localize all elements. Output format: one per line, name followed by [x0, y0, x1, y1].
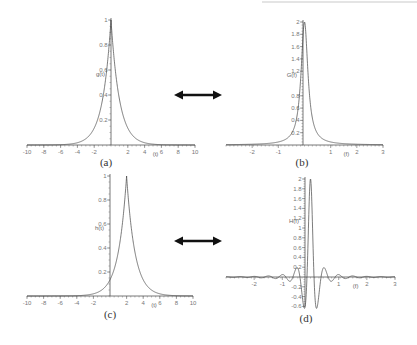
x-tick-label: -2 [249, 149, 255, 155]
x-tick-label: 4 [143, 149, 147, 155]
y-tick-label: 0.8 [293, 235, 302, 241]
x-tick-label: -1 [276, 149, 282, 155]
x-tick-label: 3 [393, 281, 397, 287]
y-tick-label: 2 [298, 176, 302, 182]
y-tick-label: 1.4 [291, 56, 300, 62]
y-tick-label: 0.6 [293, 245, 302, 251]
y-axis-label: h(t) [95, 225, 104, 231]
y-tick-label: 1 [298, 225, 302, 231]
panel-c-time-domain-h: -10-8-6-4-22468100.20.40.60.81h(t)(t)(c) [23, 173, 197, 321]
x-tick-label: -4 [75, 149, 81, 155]
x-axis-label: (t) [151, 302, 157, 308]
y-tick-label: 1.8 [291, 31, 300, 37]
x-tick-label: -4 [74, 300, 80, 306]
panel-b-frequency-domain-G: -2-11230.20.40.60.81.21.41.61.82G(f)(f)(… [226, 19, 385, 169]
x-tick-label: 2 [355, 149, 359, 155]
x-axis-label: (f) [344, 151, 350, 157]
x-tick-label: -1 [280, 281, 286, 287]
y-tick-label: -0.6 [291, 303, 302, 309]
x-tick-label: 1 [337, 281, 341, 287]
x-tick-label: -10 [23, 149, 32, 155]
y-tick-label: -0.4 [291, 294, 302, 300]
x-tick-label: 8 [175, 300, 179, 306]
x-tick-label: 3 [381, 149, 385, 155]
y-tick-label: 0.8 [99, 42, 108, 48]
panel-caption: (d) [300, 312, 313, 325]
y-tick-label: 1.6 [293, 196, 302, 202]
x-tick-label: -2 [91, 300, 97, 306]
x-axis-label: (f) [353, 283, 359, 289]
y-tick-label: 0.6 [291, 105, 300, 111]
panel-caption: (b) [296, 156, 309, 169]
y-tick-label: 1 [104, 17, 108, 23]
y-tick-label: 2 [296, 19, 300, 25]
data-curve [226, 22, 383, 145]
y-tick-label: 1.8 [293, 186, 302, 192]
fourier-pair-arrow-top [174, 91, 222, 100]
y-tick-label: 0.4 [98, 245, 107, 251]
y-tick-label: 0.2 [99, 117, 108, 123]
panel-caption: (c) [104, 308, 117, 321]
y-tick-label: 0.8 [98, 197, 107, 203]
y-tick-label: 1 [103, 173, 107, 179]
y-tick-label: 0.2 [291, 130, 300, 136]
x-tick-label: 8 [177, 149, 181, 155]
panel-caption: (a) [100, 156, 113, 169]
y-axis-label: H(f) [289, 218, 299, 224]
data-curve [226, 179, 395, 308]
x-tick-label: 6 [158, 300, 162, 306]
x-tick-label: 2 [126, 149, 130, 155]
x-tick-label: -8 [41, 300, 47, 306]
y-tick-label: 0.8 [291, 93, 300, 99]
x-tick-label: -6 [58, 300, 64, 306]
figure-canvas: -10-8-6-4-22468100.20.40.60.81g(t)(t)(a)… [0, 0, 417, 345]
y-tick-label: 0.4 [293, 254, 302, 260]
y-tick-label: 0.2 [98, 269, 107, 275]
y-axis-label: g(t) [96, 71, 105, 77]
x-tick-label: -2 [251, 281, 257, 287]
x-tick-label: 10 [190, 300, 197, 306]
x-tick-label: 4 [142, 300, 146, 306]
x-tick-label: -6 [58, 149, 64, 155]
x-tick-label: 2 [365, 281, 369, 287]
x-tick-label: 10 [192, 149, 199, 155]
fourier-pair-arrow-bottom [174, 237, 222, 246]
panel-a-time-domain-g: -10-8-6-4-22468100.20.40.60.81g(t)(t)(a) [23, 17, 199, 169]
x-tick-label: -8 [41, 149, 47, 155]
y-tick-label: 1.4 [293, 205, 302, 211]
fourier-pair-arrows [174, 91, 222, 246]
y-tick-label: -0.2 [291, 284, 302, 290]
x-tick-label: 2 [125, 300, 129, 306]
y-tick-label: 1.6 [291, 44, 300, 50]
y-axis-label: G(f) [287, 72, 297, 78]
x-tick-label: -2 [92, 149, 98, 155]
panel-d-frequency-domain-H: -2-1123-0.6-0.4-0.20.20.40.60.811.21.41.… [226, 176, 397, 325]
x-tick-label: -10 [23, 300, 32, 306]
y-tick-label: 0.2 [293, 264, 302, 270]
x-axis-label: (t) [153, 151, 159, 157]
x-tick-label: 6 [160, 149, 164, 155]
x-tick-label: 1 [329, 149, 333, 155]
